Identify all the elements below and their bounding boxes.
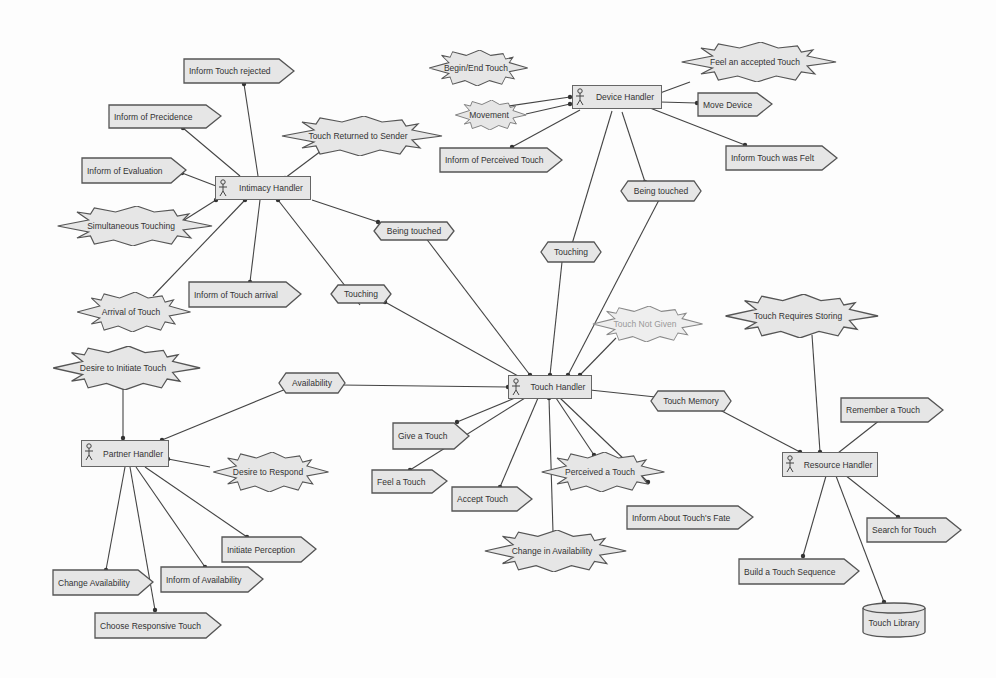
event-touch-returned[interactable]: Touch Returned to Sender xyxy=(272,116,444,156)
action-label: Inform of Perceived Touch xyxy=(445,155,544,165)
action-move-device[interactable]: Move Device xyxy=(697,92,773,117)
event-label: Touch Not Given xyxy=(614,319,677,329)
action-remember-touch[interactable]: Remember a Touch xyxy=(840,397,944,423)
channel-label: Touching xyxy=(554,247,588,257)
channel-label: Touch Memory xyxy=(663,396,719,406)
event-label: Feel an accepted Touch xyxy=(710,57,800,67)
store-touch-library[interactable]: Touch Library xyxy=(862,602,926,638)
channel-being-touched-2[interactable]: Being touched xyxy=(620,180,702,202)
action-label: Inform of Touch arrival xyxy=(194,290,278,300)
channel-touch-memory[interactable]: Touch Memory xyxy=(650,390,732,412)
action-label: Give a Touch xyxy=(398,431,447,441)
event-change-avail[interactable]: Change in Availability xyxy=(476,530,628,572)
action-label: Inform of Availability xyxy=(166,575,241,585)
action-feel-touch[interactable]: Feel a Touch xyxy=(371,469,448,494)
channel-touching-2[interactable]: Touching xyxy=(540,241,602,263)
event-label: Desire to Initiate Touch xyxy=(80,363,166,373)
action-accept-touch[interactable]: Accept Touch xyxy=(451,486,533,512)
event-begin-end[interactable]: Begin/End Touch xyxy=(423,50,529,86)
event-requires-storing[interactable]: Touch Requires Storing xyxy=(716,294,880,338)
action-inform-perceived-touch[interactable]: Inform of Perceived Touch xyxy=(439,147,563,173)
event-label: Perceived a Touch xyxy=(565,467,635,477)
action-inform-precedence[interactable]: Inform of Precidence xyxy=(108,104,222,129)
device-handler[interactable]: Device Handler xyxy=(572,85,662,109)
actor-icon xyxy=(218,179,228,197)
event-simultaneous[interactable]: Simultaneous Touching xyxy=(48,206,214,246)
handler-label: Partner Handler xyxy=(103,449,163,459)
event-label: Movement xyxy=(469,110,509,120)
action-label: Inform About Touch's Fate xyxy=(632,513,730,523)
action-choose-response[interactable]: Choose Responsive Touch xyxy=(94,612,222,639)
action-label: Choose Responsive Touch xyxy=(100,621,201,631)
action-label: Search for Touch xyxy=(872,525,936,535)
action-label: Feel a Touch xyxy=(377,477,426,487)
action-change-availability[interactable]: Change Availability xyxy=(52,569,154,596)
action-label: Initiate Perception xyxy=(227,545,295,555)
event-desire-respond[interactable]: Desire to Respond xyxy=(206,452,330,492)
event-desire-initiate[interactable]: Desire to Initiate Touch xyxy=(44,346,202,390)
handler-label: Touch Handler xyxy=(531,382,586,392)
event-label: Touch Requires Storing xyxy=(754,311,842,321)
actor-icon xyxy=(511,378,521,396)
store-label: Touch Library xyxy=(868,612,919,628)
event-label: Simultaneous Touching xyxy=(87,221,175,231)
channel-touching-1[interactable]: Touching xyxy=(330,284,392,304)
channel-label: Being touched xyxy=(387,226,441,236)
channel-label: Touching xyxy=(344,289,378,299)
action-build-sequence[interactable]: Build a Touch Sequence xyxy=(738,558,860,585)
event-not-given[interactable]: Touch Not Given xyxy=(586,306,704,342)
event-label: Arrival of Touch xyxy=(102,307,160,317)
action-inform-availability[interactable]: Inform of Availability xyxy=(160,566,264,593)
intimacy-handler[interactable]: Intimacy Handler xyxy=(215,176,311,200)
event-feel-accepted[interactable]: Feel an accepted Touch xyxy=(672,42,838,82)
event-label: Touch Returned to Sender xyxy=(308,131,407,141)
partner-handler[interactable]: Partner Handler xyxy=(81,440,169,467)
handler-label: Device Handler xyxy=(596,92,654,102)
action-inform-evaluation[interactable]: Inform of Evaluation xyxy=(81,157,187,184)
action-inform-touch-was-felt[interactable]: Inform Touch was Felt xyxy=(725,145,838,171)
action-label: Move Device xyxy=(703,100,752,110)
action-initiate-perception[interactable]: Initiate Perception xyxy=(221,536,317,563)
touch-handler[interactable]: Touch Handler xyxy=(508,375,592,399)
action-inform-touch-rejected[interactable]: Inform Touch rejected xyxy=(183,58,295,84)
action-label: Inform Touch rejected xyxy=(189,66,271,76)
action-label: Remember a Touch xyxy=(846,405,920,415)
action-label: Inform Touch was Felt xyxy=(731,153,814,163)
action-label: Accept Touch xyxy=(457,494,508,504)
channel-being-touched-1[interactable]: Being touched xyxy=(373,221,455,241)
event-arrival[interactable]: Arrival of Touch xyxy=(70,292,192,332)
actor-icon xyxy=(84,443,94,461)
action-give-touch[interactable]: Give a Touch xyxy=(392,422,470,450)
diagram-canvas: Intimacy Handler Device Handler Touch Ha… xyxy=(0,0,996,678)
event-label: Change in Availability xyxy=(512,546,593,556)
channel-label: Availability xyxy=(292,378,332,388)
actor-icon xyxy=(785,455,795,473)
action-inform-touch-fate[interactable]: Inform About Touch's Fate xyxy=(626,505,754,530)
action-label: Inform of Precidence xyxy=(114,112,192,122)
event-label: Begin/End Touch xyxy=(444,63,508,73)
resource-handler[interactable]: Resource Handler xyxy=(782,452,878,477)
event-label: Desire to Respond xyxy=(233,467,303,477)
channel-availability[interactable]: Availability xyxy=(278,372,346,394)
channel-label: Being touched xyxy=(634,186,688,196)
action-inform-touch-arrival[interactable]: Inform of Touch arrival xyxy=(188,281,302,308)
action-search-touch[interactable]: Search for Touch xyxy=(866,517,962,543)
action-label: Change Availability xyxy=(58,578,130,588)
action-label: Build a Touch Sequence xyxy=(744,567,836,577)
event-perceived[interactable]: Perceived a Touch xyxy=(534,452,666,492)
handler-label: Intimacy Handler xyxy=(239,183,303,193)
actor-icon xyxy=(575,88,585,106)
handler-label: Resource Handler xyxy=(804,460,873,470)
event-movement[interactable]: Movement xyxy=(451,100,527,130)
action-label: Inform of Evaluation xyxy=(87,166,163,176)
